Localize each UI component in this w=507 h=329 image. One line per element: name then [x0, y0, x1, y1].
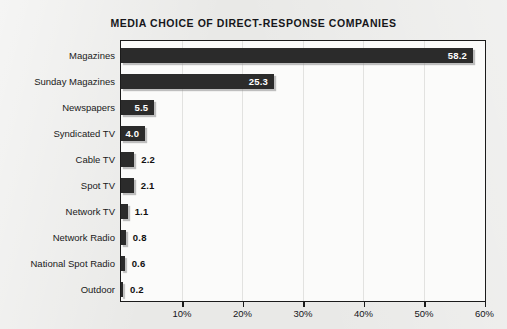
- plot-area: 58.225.35.54.02.22.11.10.80.60.2: [120, 40, 486, 302]
- bar-row: 2.1: [121, 173, 485, 199]
- bar-value-label: 58.2: [448, 50, 473, 61]
- bar-row: 0.8: [121, 224, 485, 250]
- x-tick-label: 20%: [233, 308, 252, 319]
- bar[interactable]: 5.5: [121, 100, 154, 115]
- bar[interactable]: [121, 152, 134, 167]
- x-tick-mark: [485, 302, 487, 307]
- category-label: Cable TV: [76, 147, 115, 173]
- chart-page: MEDIA CHOICE OF DIRECT-RESPONSE COMPANIE…: [0, 0, 507, 329]
- category-label: Sunday Magazines: [34, 69, 115, 95]
- bar-row: 2.2: [121, 147, 485, 173]
- bar-value-label: 5.5: [134, 102, 154, 113]
- bar[interactable]: [121, 282, 123, 297]
- category-label: National Spot Radio: [31, 250, 116, 276]
- bar-value-label: 2.1: [141, 180, 155, 191]
- x-tick-label: 60%: [475, 308, 494, 319]
- x-tick-label: 50%: [414, 308, 433, 319]
- x-axis: 10%20%30%40%50%60%: [120, 302, 486, 328]
- x-tick-label: 40%: [354, 308, 373, 319]
- category-label: Spot TV: [81, 173, 115, 199]
- bar-row: 0.6: [121, 250, 485, 276]
- category-axis-labels: MagazinesSunday MagazinesNewspapersSyndi…: [0, 40, 115, 302]
- bar[interactable]: 58.2: [121, 48, 473, 63]
- bar[interactable]: [121, 204, 128, 219]
- bar-value-label: 1.1: [135, 206, 149, 217]
- bar-row: 25.3: [121, 69, 485, 95]
- x-tick-mark: [303, 302, 305, 307]
- category-label: Syndicated TV: [53, 121, 115, 147]
- plot-inner: 58.225.35.54.02.22.11.10.80.60.2: [121, 41, 485, 301]
- bar-value-label: 4.0: [125, 128, 145, 139]
- bar-row: 1.1: [121, 198, 485, 224]
- bar[interactable]: 4.0: [121, 126, 145, 141]
- bar-value-label: 0.6: [132, 258, 146, 269]
- bar-value-label: 0.2: [130, 284, 144, 295]
- category-label: Outdoor: [81, 276, 115, 302]
- bar-row: 5.5: [121, 95, 485, 121]
- category-label: Network Radio: [53, 224, 115, 250]
- x-tick-mark: [424, 302, 426, 307]
- x-tick-label: 30%: [293, 308, 312, 319]
- bar-value-label: 2.2: [141, 154, 155, 165]
- bar-row: 4.0: [121, 121, 485, 147]
- bar[interactable]: 25.3: [121, 74, 274, 89]
- chart-title: MEDIA CHOICE OF DIRECT-RESPONSE COMPANIE…: [0, 17, 507, 29]
- bar[interactable]: [121, 178, 134, 193]
- x-tick-mark: [364, 302, 366, 307]
- bar[interactable]: [121, 230, 126, 245]
- bar[interactable]: [121, 256, 125, 271]
- bar-value-label: 25.3: [249, 76, 274, 87]
- bar-row: 58.2: [121, 43, 485, 69]
- x-tick-mark: [182, 302, 184, 307]
- x-tick-label: 10%: [172, 308, 191, 319]
- bar-value-label: 0.8: [133, 232, 147, 243]
- category-label: Network TV: [66, 198, 115, 224]
- bar-row: 0.2: [121, 276, 485, 301]
- category-label: Newspapers: [62, 95, 115, 121]
- category-label: Magazines: [69, 43, 115, 69]
- x-tick-mark: [243, 302, 245, 307]
